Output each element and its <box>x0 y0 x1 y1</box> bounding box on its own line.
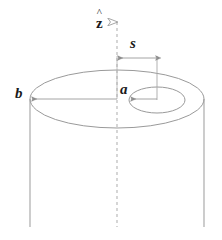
z-axis-label: ^ z <box>96 10 103 30</box>
a-dimension-label: a <box>120 82 128 97</box>
b-dimension-label: b <box>15 86 23 101</box>
s-dimension-label: s <box>130 36 136 51</box>
z-axis-label-text: z <box>96 16 103 30</box>
figure-canvas: ^ z s b a <box>0 0 222 240</box>
diagram-svg <box>0 0 222 240</box>
